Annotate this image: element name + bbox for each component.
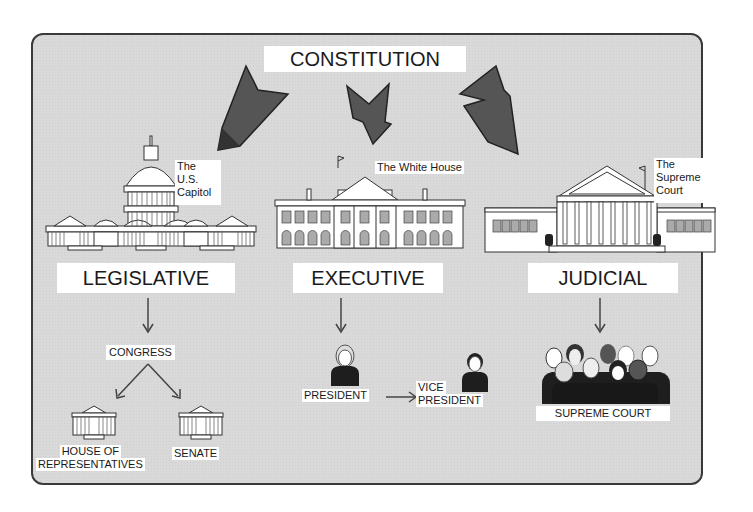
- house-of-representatives-label: HOUSE OF REPRESENTATIVES: [34, 445, 147, 471]
- vice-president-label: VICE PRESIDENT: [416, 381, 483, 407]
- arrow-to-judicial-icon: [456, 62, 536, 162]
- senate-building-icon: [177, 405, 225, 441]
- capitol-building-icon: [44, 134, 259, 252]
- arrow-legislative-to-congress-icon: [140, 296, 160, 336]
- president-to-vp-arrow-icon: [385, 389, 419, 405]
- supreme-court-justices-icon: [540, 344, 672, 404]
- congress-label: CONGRESS: [106, 345, 175, 360]
- supreme-court-label: SUPREME COURT: [536, 406, 670, 421]
- arrow-to-executive-icon: [343, 82, 403, 152]
- branch-judicial: JUDICIAL: [528, 263, 678, 293]
- president-label: PRESIDENT: [302, 389, 369, 402]
- supreme-court-building-label: The Supreme Court: [654, 158, 706, 203]
- senate-label: SENATE: [172, 447, 219, 460]
- branch-legislative: LEGISLATIVE: [57, 263, 235, 293]
- arrow-judicial-to-court-icon: [592, 296, 612, 336]
- branch-executive: EXECUTIVE: [293, 263, 443, 293]
- capitol-label: The U.S. Capitol: [175, 160, 221, 205]
- white-house-label: The White House: [375, 161, 464, 174]
- house-building-icon: [70, 405, 118, 441]
- arrow-executive-to-president-icon: [333, 296, 353, 336]
- president-person-icon: [329, 344, 361, 386]
- congress-split-arrows-icon: [110, 362, 190, 402]
